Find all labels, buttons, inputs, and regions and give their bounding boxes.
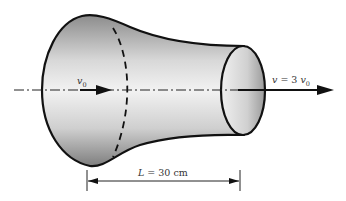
- nozzle-flow-diagram: v0 v = 3 v0 L = 30 cm: [0, 0, 346, 201]
- nozzle-body: [42, 15, 244, 166]
- outlet-velocity-arrowhead-icon: [317, 85, 334, 95]
- outlet-velocity-label: v = 3 v0: [272, 74, 310, 88]
- length-label: L = 30 cm: [137, 167, 188, 178]
- dimension-arrowhead-right-icon: [229, 178, 239, 184]
- dimension-arrowhead-left-icon: [88, 178, 98, 184]
